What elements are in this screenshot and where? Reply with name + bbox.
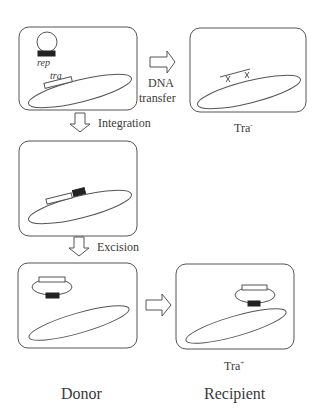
tra-minus-phenotype: Tra- — [234, 121, 253, 136]
tra-gene-plasmid — [39, 277, 65, 282]
cell-donor-integrated — [19, 141, 137, 236]
excision-arrow-icon — [69, 237, 89, 256]
tra-plus-phenotype: Tra+ — [224, 359, 244, 374]
conjugation-arrow-icon — [146, 294, 171, 316]
recipient-final-chromosome — [183, 302, 288, 350]
rep-gene-block — [38, 51, 55, 56]
dna-transfer-label-line1: DNA — [148, 76, 174, 91]
integration-label: Integration — [98, 116, 151, 131]
plasmid-circle — [37, 32, 57, 52]
tra-label: tra — [50, 70, 62, 81]
excision-label: Excision — [97, 240, 139, 255]
transfer-arrow-icon — [150, 51, 175, 73]
rep-gene-plasmid — [46, 293, 59, 298]
donor-column-label: Donor — [61, 385, 102, 403]
integration-arrow-icon — [70, 113, 90, 132]
recipient-column-label: Recipient — [204, 385, 265, 403]
chromosome — [26, 68, 134, 115]
crossover-marks — [226, 72, 249, 82]
tra-gene-recipient — [242, 285, 267, 290]
rep-gene-recipient — [248, 301, 260, 306]
rep-label: rep — [37, 57, 50, 68]
recipient-chromosome — [195, 69, 303, 116]
donor-chromosome — [26, 299, 131, 347]
tra-gene-integrated — [46, 193, 72, 204]
dna-transfer-label-line2: transfer — [139, 91, 176, 106]
cell-donor-initial — [19, 27, 137, 110]
